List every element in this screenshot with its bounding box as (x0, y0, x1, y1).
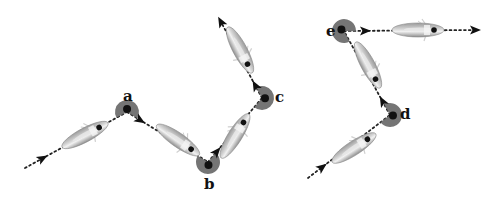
bacterium-cell-icon (392, 19, 444, 41)
turn-label-c: c (275, 90, 284, 105)
turn-label-d: d (400, 107, 411, 122)
turn-label-e: e (326, 24, 336, 39)
bacterium-cell-icon (57, 113, 113, 157)
arrowhead-icon (36, 152, 50, 165)
turn-point-dot (204, 161, 212, 169)
bacterium-cell-icon (212, 108, 258, 164)
trajectory-paths (25, 22, 475, 178)
turn-point-dot (123, 105, 131, 113)
turn-point-dot (389, 112, 397, 120)
arrowhead-icon (214, 15, 227, 29)
bacteria-cells (57, 19, 444, 171)
bacterial-run-and-tumble-diagram: a b c d e (0, 0, 499, 204)
bacterium-cell-icon (326, 125, 382, 172)
cell-head-dot (431, 27, 437, 33)
arrowhead-icon (360, 26, 371, 35)
cell-band (424, 25, 430, 35)
diagram-canvas (0, 0, 499, 204)
turn-label-a: a (123, 89, 133, 104)
turn-point-dot (261, 94, 269, 102)
arrowhead-icon (470, 25, 481, 34)
cell-highlight (404, 28, 436, 32)
turn-point-dot (337, 25, 345, 33)
direction-arrows (36, 15, 481, 174)
turn-label-b: b (204, 177, 215, 192)
